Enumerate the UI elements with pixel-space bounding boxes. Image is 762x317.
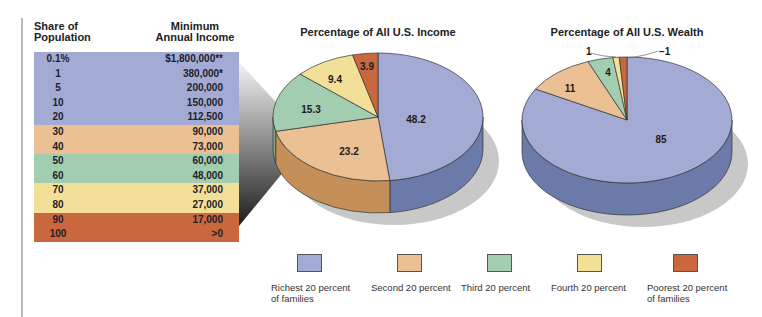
- slice-label-richest: 48.2: [406, 114, 426, 125]
- legend-swatch: [577, 254, 602, 272]
- slice-label-fourth: 1: [586, 46, 592, 57]
- legend-item-third: Third 20 percent: [461, 254, 512, 272]
- legend-swatch: [397, 254, 422, 272]
- legend-item-richest: Richest 20 percentof families: [271, 254, 322, 272]
- slice-label-richest: 85: [655, 134, 667, 145]
- slice-label-second: 23.2: [339, 146, 359, 157]
- legend-label: Poorest 20 percentof families: [647, 283, 727, 304]
- income-chart-title: Percentage of All U.S. Income: [268, 26, 488, 38]
- slice-label-second: 11: [565, 83, 576, 94]
- wealth-chart-title: Percentage of All U.S. Wealth: [517, 26, 737, 38]
- slice-label-poorest: −1: [659, 46, 671, 57]
- legend-swatch: [487, 254, 512, 272]
- slice-label-poorest: 3.9: [360, 61, 374, 72]
- income-pie: 48.223.215.39.43.9: [273, 53, 499, 225]
- legend-label: Third 20 percent: [461, 283, 530, 294]
- callout-line-fourth: [590, 53, 616, 57]
- legend-item-poorest: Poorest 20 percentof families: [647, 254, 698, 272]
- legend-label: Second 20 percent: [371, 283, 451, 294]
- legend-label: Richest 20 percentof families: [271, 283, 350, 304]
- legend-item-fourth: Fourth 20 percent: [551, 254, 602, 272]
- slice-label-fourth: 9.4: [328, 74, 342, 85]
- legend-swatch: [297, 254, 322, 272]
- legend-item-second: Second 20 percent: [371, 254, 422, 272]
- slice-label-third: 4: [605, 67, 611, 78]
- legend-swatch: [673, 254, 698, 272]
- legend-label: Fourth 20 percent: [551, 283, 626, 294]
- wealth-pie: 851141−1: [522, 46, 748, 227]
- slice-label-third: 15.3: [301, 104, 321, 115]
